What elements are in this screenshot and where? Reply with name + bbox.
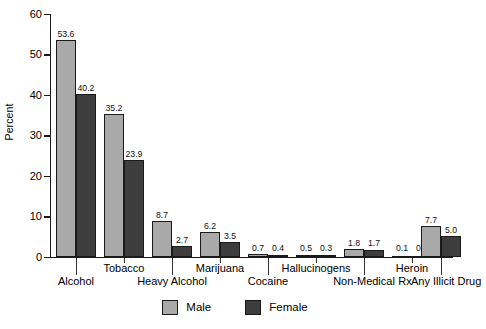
value-female-cocaine: 0.4 xyxy=(264,244,292,253)
y-tick-20 xyxy=(44,176,50,177)
x-label-non-medical-rx: Non-Medical xyxy=(324,276,404,287)
legend-item-male: Male xyxy=(162,300,211,315)
x-axis-line xyxy=(50,257,453,259)
value-male-tobacco: 35.2 xyxy=(100,104,128,113)
y-tick-40 xyxy=(44,95,50,96)
bar-male-non-medical-rx xyxy=(344,249,364,256)
value-male-any-illicit-drug: 7.7 xyxy=(417,216,445,225)
value-female-marijuana: 3.5 xyxy=(216,232,244,241)
y-tick-10 xyxy=(44,216,50,217)
y-tick-30 xyxy=(44,135,50,136)
legend-item-female: Female xyxy=(245,300,307,315)
value-female-non-medical-rx: 1.7 xyxy=(360,239,388,248)
x-tick-alcohol xyxy=(76,258,77,275)
y-tick-label-30: 30 xyxy=(8,130,42,141)
x-label-marijuana: Marijuana xyxy=(190,263,250,274)
x-label-heavy-alcohol: Heavy Alcohol xyxy=(132,276,212,287)
x-label-tobacco: Tobacco xyxy=(94,263,154,274)
legend: Male Female xyxy=(0,300,470,315)
y-tick-label-10: 10 xyxy=(8,211,42,222)
value-female-hallucinogens: 0.3 xyxy=(312,244,340,253)
legend-label-male: Male xyxy=(186,302,211,314)
bar-female-non-medical-rx xyxy=(364,250,384,257)
y-tick-label-20: 20 xyxy=(8,171,42,182)
legend-label-female: Female xyxy=(269,302,307,314)
x-label-hallucinogens: Hallucinogens xyxy=(276,263,356,274)
x-label-alcohol: Alcohol xyxy=(46,276,106,287)
bar-female-alcohol xyxy=(76,94,96,257)
value-male-heavy-alcohol: 8.7 xyxy=(148,211,176,220)
y-tick-label-40: 40 xyxy=(8,90,42,101)
bar-female-tobacco xyxy=(124,160,144,257)
x-tick-non-medical-rx xyxy=(364,258,365,275)
x-label-cocaine: Cocaine xyxy=(238,276,298,287)
bar-male-tobacco xyxy=(104,114,124,256)
value-male-marijuana: 6.2 xyxy=(196,222,224,231)
x-label-any-illicit-drug: Any Illicit Drug xyxy=(411,276,486,287)
x-tick-cocaine xyxy=(268,258,269,275)
x-tick-heavy-alcohol xyxy=(172,258,173,275)
bar-male-alcohol xyxy=(56,40,76,257)
y-axis-line xyxy=(50,14,51,258)
value-female-any-illicit-drug: 5.0 xyxy=(437,226,465,235)
y-axis-title: Percent xyxy=(3,92,15,152)
y-tick-50 xyxy=(44,54,50,55)
legend-swatch-female xyxy=(245,300,261,315)
x-label-heroin: Heroin xyxy=(382,263,442,274)
bar-female-heavy-alcohol xyxy=(172,246,192,257)
bar-female-marijuana xyxy=(220,242,240,256)
value-male-alcohol: 53.6 xyxy=(52,30,80,39)
bar-female-any-illicit-drug xyxy=(441,236,461,256)
legend-swatch-male xyxy=(162,300,178,315)
value-female-heavy-alcohol: 2.7 xyxy=(168,236,196,245)
y-tick-60 xyxy=(44,14,50,15)
y-tick-label-0: 0 xyxy=(8,252,42,263)
y-tick-label-50: 50 xyxy=(8,49,42,60)
y-tick-label-60: 60 xyxy=(8,9,42,20)
value-female-tobacco: 23.9 xyxy=(120,150,148,159)
value-female-alcohol: 40.2 xyxy=(72,84,100,93)
